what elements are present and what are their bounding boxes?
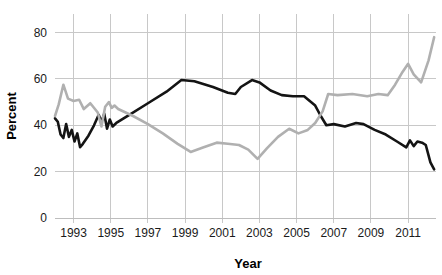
x-axis-title: Year xyxy=(234,256,261,271)
x-tick-label: 2007 xyxy=(320,226,347,240)
y-tick-label: 40 xyxy=(34,118,48,132)
x-tick-label: 1995 xyxy=(97,226,124,240)
gridlines-horizontal xyxy=(55,33,436,172)
x-tick-label: 2011 xyxy=(395,226,421,240)
y-tick-label: 0 xyxy=(40,211,47,225)
x-tick-label: 2001 xyxy=(209,226,236,240)
x-tick-label: 2003 xyxy=(246,226,273,240)
x-tick-label: 1997 xyxy=(135,226,162,240)
x-axis-tick-labels: 1993199519971999200120032005200720092011 xyxy=(60,226,421,240)
series-line-gray-series xyxy=(55,37,434,159)
y-axis-tick-labels: 020406080 xyxy=(34,26,48,225)
x-tick-label: 1993 xyxy=(60,226,87,240)
y-tick-label: 20 xyxy=(34,165,48,179)
x-tick-label: 1999 xyxy=(172,226,199,240)
line-chart: 020406080 199319951997199920012003200520… xyxy=(0,0,442,275)
data-series-group xyxy=(55,37,434,169)
y-tick-label: 60 xyxy=(34,72,48,86)
y-tick-label: 80 xyxy=(34,26,48,40)
x-tick-label: 2009 xyxy=(358,226,385,240)
y-axis-title: Percent xyxy=(4,91,19,139)
chart-canvas: 020406080 199319951997199920012003200520… xyxy=(0,0,442,275)
x-tick-label: 2005 xyxy=(283,226,310,240)
